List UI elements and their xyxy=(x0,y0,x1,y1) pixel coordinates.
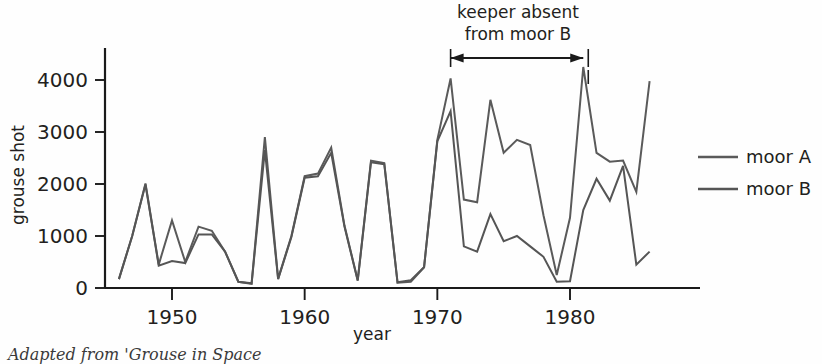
series-line-moor-b xyxy=(119,111,650,283)
y-tick-label: 3000 xyxy=(37,120,88,144)
grouse-shot-line-chart: 01000200030004000 1950196019701980 grous… xyxy=(0,0,822,364)
x-tick-label: 1960 xyxy=(279,305,330,329)
x-axis-title: year xyxy=(353,324,391,344)
legend-label-moor-b: moor B xyxy=(746,178,811,199)
figure-container: 01000200030004000 1950196019701980 grous… xyxy=(0,0,822,364)
x-tick-label: 1980 xyxy=(545,305,596,329)
y-tick-label: 0 xyxy=(75,276,88,300)
annotation-line-1: keeper absent xyxy=(457,2,579,22)
y-axis-title: grouse shot xyxy=(8,125,28,225)
figure-caption: Adapted from 'Grouse in Space xyxy=(8,345,261,364)
legend-label-moor-a: moor A xyxy=(746,146,812,167)
x-tick-label: 1970 xyxy=(412,305,463,329)
data-series-layer xyxy=(119,67,650,284)
annotation-arrow xyxy=(451,49,589,84)
x-axis-ticks xyxy=(172,288,570,300)
y-tick-label: 4000 xyxy=(37,68,88,92)
annotation-line-2: from moor B xyxy=(465,24,571,44)
annotation-arrowhead-left xyxy=(451,54,464,63)
y-axis-ticks xyxy=(95,80,105,288)
y-tick-label: 1000 xyxy=(37,224,88,248)
series-line-moor-a xyxy=(119,67,650,284)
annotation-arrowhead-right xyxy=(570,54,583,63)
y-tick-label: 2000 xyxy=(37,172,88,196)
chart-legend: moor Amoor B xyxy=(698,146,812,199)
y-axis-tick-labels: 01000200030004000 xyxy=(37,68,88,300)
x-tick-label: 1950 xyxy=(147,305,198,329)
